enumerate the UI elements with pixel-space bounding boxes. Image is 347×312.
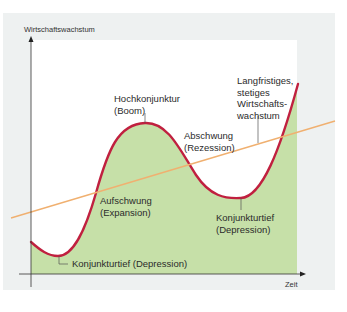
depression-left-label: Konjunkturtief (Depression)	[72, 258, 187, 270]
x-axis-arrow-icon	[300, 272, 306, 277]
recession-label-line2: (Rezession)	[184, 142, 235, 154]
trend-label-line4: wachstum	[237, 110, 294, 122]
expansion-label: Aufschwung (Expansion)	[100, 195, 152, 218]
economic-cycle-diagram: Wirtschaftswachstum Zeit Hochkonjunktur …	[0, 0, 347, 312]
recession-label-line1: Abschwung	[184, 130, 235, 142]
expansion-label-line1: Aufschwung	[100, 195, 152, 207]
y-axis-arrow-icon	[29, 36, 34, 42]
trend-label-line1: Langfristiges,	[237, 75, 294, 87]
depression-right-label: Konjunkturtief (Depression)	[216, 212, 274, 235]
boom-label-line1: Hochkonjunktur	[114, 93, 180, 105]
boom-label-line2: (Boom)	[114, 105, 180, 117]
recession-label: Abschwung (Rezession)	[184, 130, 235, 153]
trend-label-line2: stetiges	[237, 87, 294, 99]
expansion-label-line2: (Expansion)	[100, 207, 152, 219]
y-axis-label: Wirtschaftswachstum	[24, 24, 95, 36]
x-axis-label: Zeit	[285, 279, 298, 291]
trend-label: Langfristiges, stetiges Wirtschafts- wac…	[237, 75, 294, 121]
depression-right-label-line1: Konjunkturtief	[216, 212, 274, 224]
depression-right-label-line2: (Depression)	[216, 224, 274, 236]
trend-label-line3: Wirtschafts-	[237, 98, 294, 110]
boom-label: Hochkonjunktur (Boom)	[114, 93, 180, 116]
